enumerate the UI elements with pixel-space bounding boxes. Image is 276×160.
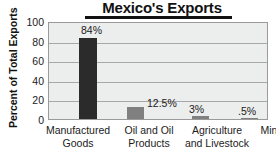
y-tick-label: 40 [14, 76, 44, 86]
category-line: Mining [251, 124, 276, 137]
chart-container: Mexico's Exports Percent of Total Export… [0, 0, 276, 160]
bar-mining[interactable] [241, 118, 258, 120]
category-line: Oil and Oil [113, 124, 185, 137]
bar-value-label: .5% [238, 106, 256, 117]
category-line: Manufactured [39, 124, 117, 137]
category-label-oil-and-oil-products: Oil and Oil Products [113, 124, 185, 149]
category-line: Products [113, 137, 185, 150]
category-line: Goods [39, 137, 117, 150]
title-underline [85, 16, 232, 19]
plot-area: 84% 12.5% 3% .5% [48, 22, 268, 120]
bar-agriculture-and-livestock[interactable] [192, 116, 209, 119]
bar-value-label: 3% [189, 104, 204, 115]
category-line: Agriculture [178, 124, 256, 137]
y-axis-tick-labels: 100 80 60 40 20 0 [14, 22, 44, 120]
bar-oil-and-oil-products[interactable] [127, 107, 144, 119]
y-tick-label: 80 [14, 37, 44, 47]
y-tick-label: 60 [14, 56, 44, 66]
category-label-agriculture-and-livestock: Agriculture and Livestock [178, 124, 256, 149]
x-axis-category-labels: Manufactured Goods Oil and Oil Products … [48, 124, 268, 158]
bar-value-label: 12.5% [147, 98, 177, 109]
category-label-mining: Mining [251, 124, 276, 137]
category-line: and Livestock [178, 137, 256, 150]
chart-title: Mexico's Exports [48, 0, 276, 15]
bars-layer: 84% 12.5% 3% .5% [49, 23, 267, 119]
bar-value-label: 84% [81, 25, 102, 36]
y-tick-label: 100 [14, 17, 44, 27]
y-tick-label: 20 [14, 95, 44, 105]
bar-manufactured-goods[interactable] [79, 38, 97, 119]
category-label-manufactured-goods: Manufactured Goods [39, 124, 117, 149]
